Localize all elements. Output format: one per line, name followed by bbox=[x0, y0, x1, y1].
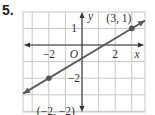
x-axis-left-arrow-icon bbox=[24, 43, 30, 48]
origin-label: O bbox=[70, 48, 79, 60]
x-axis-right-arrow-icon bbox=[138, 43, 144, 48]
data-point bbox=[129, 26, 135, 32]
x-tick-label: −2 bbox=[43, 48, 55, 60]
y-tick-label: −2 bbox=[68, 72, 80, 84]
data-point bbox=[46, 75, 52, 81]
grid bbox=[23, 12, 145, 112]
axis-labels: yxO−221−2(3, 1)(−2, −2) bbox=[37, 10, 141, 115]
graph-line bbox=[23, 20, 145, 93]
y-tick-label: 1 bbox=[71, 22, 77, 34]
y-axis-label: y bbox=[87, 10, 94, 23]
point-label: (3, 1) bbox=[106, 12, 131, 25]
coordinate-plane: yxO−221−2(3, 1)(−2, −2) bbox=[0, 0, 155, 115]
x-tick-label: 2 bbox=[112, 48, 118, 60]
data-line bbox=[23, 20, 145, 93]
point-label: (−2, −2) bbox=[37, 105, 75, 115]
x-axis-label: x bbox=[133, 48, 140, 60]
y-axis-up-arrow-icon bbox=[80, 12, 85, 18]
